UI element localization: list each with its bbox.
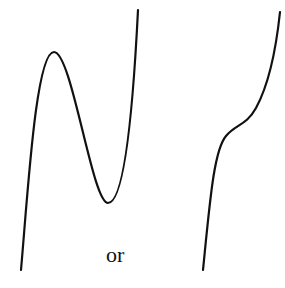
cubic-two-turning-points-curve <box>21 10 138 270</box>
or-label: or <box>106 244 124 266</box>
diagram-canvas: or <box>0 0 285 288</box>
curves-svg <box>0 0 285 288</box>
cubic-inflection-curve <box>203 12 280 270</box>
